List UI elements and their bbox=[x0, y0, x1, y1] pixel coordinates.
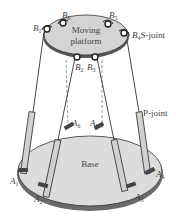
label-a3: A3 bbox=[135, 193, 144, 203]
label-b2: B2 bbox=[75, 63, 84, 73]
base-label: Base bbox=[78, 160, 102, 169]
label-a6: A6 bbox=[72, 119, 81, 129]
platform-label-line1: Moving bbox=[66, 26, 106, 35]
label-p-joint: P-joint bbox=[143, 109, 168, 118]
label-b4-s-joint: B4S-joint bbox=[132, 31, 165, 41]
label-b1: B1 bbox=[33, 24, 42, 34]
label-b6: B6 bbox=[62, 11, 71, 21]
platform-label-line2: platform bbox=[66, 37, 106, 46]
label-b3: B3 bbox=[87, 63, 96, 73]
stewart-platform-diagram: Moving platform Base B1 B6 B5 B4S-joint … bbox=[0, 0, 180, 214]
label-a4: A4 bbox=[156, 170, 165, 180]
label-b5: B5 bbox=[109, 11, 118, 21]
label-a2: A2 bbox=[34, 195, 43, 205]
label-a1: A1 bbox=[10, 177, 19, 187]
label-a5: A5 bbox=[90, 119, 99, 129]
